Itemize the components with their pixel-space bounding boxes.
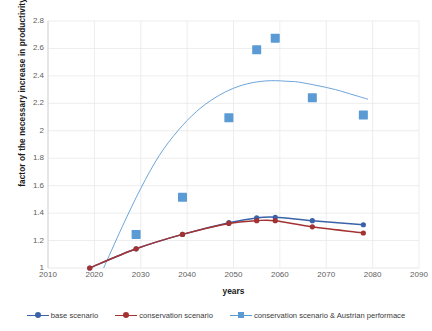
legend-item[interactable]: conservation scenario bbox=[115, 311, 213, 320]
legend-label: conservation scenario bbox=[139, 311, 213, 320]
trendline-conservation-scenario-austrian-performace bbox=[104, 81, 368, 268]
legend-swatch-icon bbox=[230, 311, 252, 320]
x-tick-label: 2090 bbox=[396, 270, 432, 280]
data-point-conservation-scenario-austrian-performace[interactable] bbox=[178, 193, 187, 202]
series-line-base-scenario bbox=[90, 217, 364, 268]
y-axis-title: factor of the necessary increase in prod… bbox=[18, 0, 27, 193]
legend-item[interactable]: base scenario bbox=[27, 311, 98, 320]
data-point-conservation-scenario[interactable] bbox=[254, 218, 259, 223]
x-tick-label: 2030 bbox=[118, 270, 164, 280]
legend-marker-circle-icon bbox=[123, 312, 129, 318]
data-point-conservation-scenario-austrian-performace[interactable] bbox=[308, 93, 317, 102]
legend-label: base scenario bbox=[51, 311, 98, 320]
data-point-conservation-scenario[interactable] bbox=[180, 232, 185, 237]
plot-canvas bbox=[48, 21, 419, 268]
plot-area bbox=[48, 21, 419, 268]
x-tick-label: 2070 bbox=[303, 270, 349, 280]
x-axis: 201020202030204020502060207020802090 bbox=[48, 270, 419, 284]
data-point-conservation-scenario-austrian-performace[interactable] bbox=[224, 113, 233, 122]
x-tick-label: 2060 bbox=[257, 270, 303, 280]
legend-item[interactable]: conservation scenario & Austrian perform… bbox=[230, 311, 405, 320]
productivity-factor-chart: 11.21.41.61.822.22.42.62.8 factor of the… bbox=[0, 0, 432, 331]
series-line-conservation-scenario bbox=[90, 220, 364, 268]
data-point-conservation-scenario[interactable] bbox=[361, 230, 366, 235]
x-tick-label: 2010 bbox=[25, 270, 71, 280]
data-point-conservation-scenario[interactable] bbox=[134, 246, 139, 251]
x-tick-label: 2050 bbox=[211, 270, 257, 280]
y-tick-label: 1.4 bbox=[4, 209, 44, 217]
x-tick-label: 2020 bbox=[71, 270, 117, 280]
x-tick-label: 2040 bbox=[164, 270, 210, 280]
data-point-conservation-scenario-austrian-performace[interactable] bbox=[252, 45, 261, 54]
legend-marker-circle-icon bbox=[35, 312, 41, 318]
legend-swatch-icon bbox=[27, 311, 49, 320]
legend-marker-square-icon bbox=[238, 312, 244, 318]
data-point-conservation-scenario[interactable] bbox=[226, 221, 231, 226]
data-point-base-scenario[interactable] bbox=[361, 222, 366, 227]
x-axis-title: years bbox=[48, 286, 419, 296]
data-point-base-scenario[interactable] bbox=[310, 218, 315, 223]
y-tick-label: 1.2 bbox=[4, 237, 44, 245]
data-point-conservation-scenario-austrian-performace[interactable] bbox=[132, 230, 141, 239]
legend-swatch-icon bbox=[115, 311, 137, 320]
x-tick-label: 2080 bbox=[350, 270, 396, 280]
data-point-conservation-scenario-austrian-performace[interactable] bbox=[359, 110, 368, 119]
legend-label: conservation scenario & Austrian perform… bbox=[254, 311, 405, 320]
data-point-conservation-scenario[interactable] bbox=[273, 218, 278, 223]
data-point-conservation-scenario-austrian-performace[interactable] bbox=[271, 34, 280, 43]
data-point-conservation-scenario[interactable] bbox=[310, 224, 315, 229]
chart-legend: base scenarioconservation scenarioconser… bbox=[0, 307, 432, 323]
